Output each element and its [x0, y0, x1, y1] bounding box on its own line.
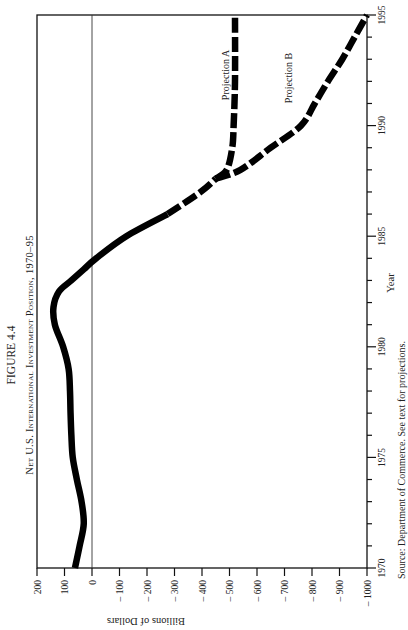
- value-tick-label: 200: [33, 580, 43, 595]
- value-tick-label: – 900: [335, 580, 345, 603]
- series-transition: [168, 179, 216, 214]
- value-tick-label: – 300: [170, 580, 180, 603]
- value-tick-label: – 1000: [363, 580, 373, 607]
- value-tick-label: 0: [88, 580, 98, 585]
- chart-figure: 2001000– 100– 200– 300– 400– 500– 600– 7…: [0, 0, 408, 630]
- annotation-projection-a: Projection A: [220, 49, 231, 100]
- value-tick-label: – 200: [143, 580, 153, 603]
- year-tick-label: 1985: [377, 226, 387, 245]
- value-axis-ticks: 2001000– 100– 200– 300– 400– 500– 600– 7…: [33, 568, 373, 607]
- source-note: Source: Department of Commerce. See text…: [396, 341, 407, 579]
- value-axis-label: Billions of Dollars: [107, 616, 185, 627]
- value-tick-label: – 500: [225, 580, 235, 603]
- figure-label: FIGURE 4.4: [5, 325, 17, 384]
- series-actual: [53, 214, 167, 568]
- year-axis-ticks: 197019751980198519901995: [367, 5, 387, 577]
- value-tick-label: – 800: [308, 580, 318, 603]
- value-tick-label: 100: [60, 580, 70, 595]
- annotation-projection-b: Projection B: [283, 53, 294, 104]
- figure-title: Net U.S. International Investment Positi…: [24, 235, 35, 474]
- year-tick-label: 1975: [377, 448, 387, 467]
- data-series: [53, 15, 367, 568]
- value-tick-label: – 600: [253, 580, 263, 603]
- year-tick-label: 1970: [377, 558, 387, 577]
- value-tick-label: – 400: [198, 580, 208, 603]
- year-axis-label: Year: [385, 273, 396, 293]
- year-tick-label: 1980: [377, 337, 387, 356]
- year-tick-label: 1995: [377, 5, 387, 24]
- year-tick-label: 1990: [377, 116, 387, 135]
- chart-canvas: 2001000– 100– 200– 300– 400– 500– 600– 7…: [0, 0, 408, 630]
- value-tick-label: – 700: [280, 580, 290, 603]
- value-tick-label: – 100: [115, 580, 125, 603]
